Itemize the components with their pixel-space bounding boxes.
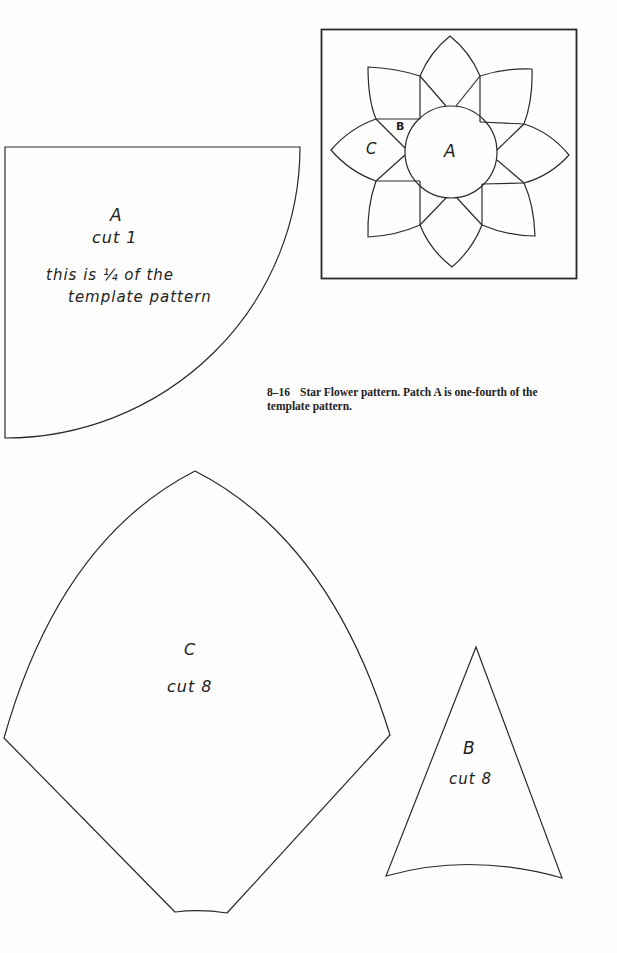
petal-bottom <box>420 225 482 267</box>
petal-bottom-left <box>368 181 420 237</box>
petal-top-right <box>480 69 532 124</box>
patch-b-letter: B <box>463 738 476 758</box>
patch-c-letter: C <box>184 640 196 659</box>
pattern-drawings <box>0 0 617 953</box>
figure-caption-text: Star Flower pattern. Patch A is one-four… <box>267 386 538 412</box>
patch-a-note-line2: template pattern <box>68 288 212 306</box>
patch-a-letter: A <box>110 205 123 225</box>
petal-top-left <box>368 67 420 119</box>
patch-a-note-line1: this is ¼ of the <box>46 266 174 284</box>
patch-b-template <box>386 647 562 878</box>
petal-right <box>524 124 569 183</box>
petal-bottom-right <box>482 183 535 236</box>
patch-b-instruction: cut 8 <box>449 770 492 788</box>
pattern-page: A B C A cut 1 this is ¼ of the template … <box>0 0 617 953</box>
block-label-a: A <box>444 141 456 161</box>
block-label-b: B <box>396 120 404 133</box>
block-label-c: C <box>366 140 376 158</box>
patch-c-instruction: cut 8 <box>167 677 212 696</box>
petal-top <box>420 36 480 76</box>
patch-a-instruction: cut 1 <box>92 228 137 247</box>
figure-number: 8–16 <box>267 386 290 398</box>
figure-caption: 8–16Star Flower pattern. Patch A is one-… <box>267 385 547 413</box>
